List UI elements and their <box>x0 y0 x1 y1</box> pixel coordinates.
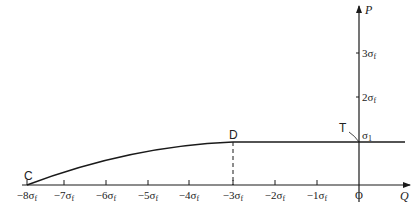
svg-text:−8σf: −8σf <box>17 189 38 203</box>
svg-text:−5σf: −5σf <box>138 189 159 203</box>
curve-c-d <box>27 142 233 185</box>
svg-text:3σf: 3σf <box>362 47 376 61</box>
point-d-label: D <box>229 128 238 142</box>
point-c-label: C <box>24 169 33 183</box>
svg-text:−3σf: −3σf <box>223 189 244 203</box>
t-leader <box>349 132 359 142</box>
origin-label: O <box>355 189 363 201</box>
plastic-yield-diagram: −8σf −7σf −6σf −5σf −4σf −3σf −2σf −1σf … <box>0 0 420 214</box>
svg-text:−1σf: −1σf <box>307 189 328 203</box>
p-axis-label: P <box>364 3 373 17</box>
svg-text:−2σf: −2σf <box>265 189 286 203</box>
svg-text:σ1: σ1 <box>362 129 372 143</box>
point-t-label: T <box>339 121 347 135</box>
svg-text:−4σf: −4σf <box>179 189 200 203</box>
y-tick-labels: 3σf 2σf σ1 <box>362 47 376 143</box>
svg-text:2σf: 2σf <box>362 91 376 105</box>
svg-text:−7σf: −7σf <box>54 189 75 203</box>
q-axis-label: Q <box>400 189 409 203</box>
x-ticks <box>27 180 317 185</box>
svg-text:−6σf: −6σf <box>96 189 117 203</box>
x-tick-labels: −8σf −7σf −6σf −5σf −4σf −3σf −2σf −1σf <box>17 189 328 203</box>
